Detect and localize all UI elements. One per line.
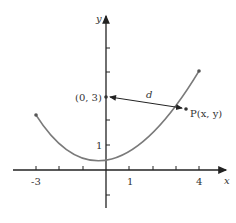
curve-endpoint-right xyxy=(197,69,201,73)
focus-point-label: (0, 3) xyxy=(75,92,102,103)
point-p xyxy=(184,107,188,111)
curve-endpoint-left xyxy=(34,113,38,117)
parabola-curve xyxy=(36,71,199,161)
y-axis-label: y xyxy=(95,13,102,24)
parabola-diagram: y x -3 1 4 1 (0, 3) d P(x, y) xyxy=(0,0,236,223)
x-tick-label-neg3: -3 xyxy=(31,176,41,187)
point-p-label: P(x, y) xyxy=(190,108,222,119)
x-axis-label: x xyxy=(224,175,230,186)
x-tick-label-1: 1 xyxy=(127,176,133,187)
x-tick-label-4: 4 xyxy=(196,176,202,187)
distance-label: d xyxy=(146,89,152,100)
y-tick-label-1: 1 xyxy=(96,140,102,151)
focus-point xyxy=(104,95,108,99)
